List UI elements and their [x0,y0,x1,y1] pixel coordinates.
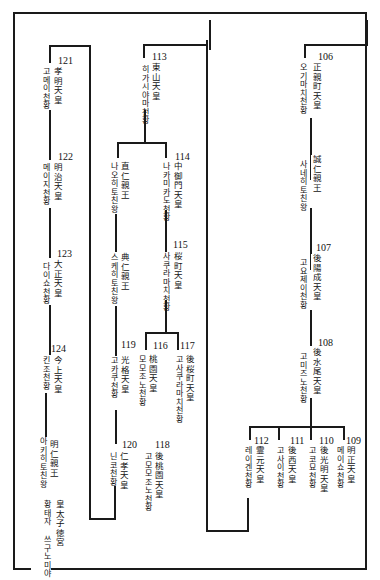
emperor-number: 107 [316,243,331,253]
emperor-number: 113 [152,52,167,62]
prince-kanji: 直仁親王 [119,162,128,200]
prince-kanji: 誠仁親王 [311,155,320,193]
emperor-kanji: 桜町天皇 [172,252,181,290]
connector [45,393,47,441]
emperor-korean: 메이쇼천황 [335,446,344,489]
connector [89,518,116,520]
connector [145,332,147,350]
emperor-number: 115 [173,240,188,250]
connector [366,20,368,46]
emperor-number: 118 [155,440,170,450]
emperor-number: 111 [290,436,304,446]
connector [247,498,249,532]
emperor-korean: 닌코천황 [108,452,117,486]
emperor-kanji: 中御門天皇 [172,162,181,210]
emperor-korean: 고요제이천황 [298,258,307,309]
emperor-kanji: 霊元天皇 [254,446,263,484]
emperor-number: 121 [58,56,73,66]
connector [249,426,345,428]
connector [143,44,208,46]
prince-korean: 아키히토친왕 [38,437,47,488]
connector [117,142,119,158]
emperor-kanji: 後西天皇 [286,446,295,484]
emperor-number: 112 [254,436,269,446]
connector [304,44,306,58]
emperor-korean: 다이쇼천황 [41,262,50,305]
emperor-number: 123 [57,249,72,259]
emperor-kanji: 後陽成天皇 [311,254,320,302]
connector [278,426,280,440]
emperor-number: 120 [122,440,137,450]
connector [145,332,179,334]
emperor-korean: 고사쿠라마치천황 [174,355,183,423]
emperor-korean: 고모모조노천황 [143,452,152,512]
connector [177,332,179,350]
connector [144,110,146,144]
emperor-number: 116 [153,341,168,351]
connector [165,142,167,158]
crown-prince-kanji: 皇太子徳宮 [54,500,63,548]
emperor-kanji: 後水尾天皇 [311,348,320,396]
emperor-kanji: 大正天皇 [52,260,61,298]
emperor-kanji: 光格天皇 [119,356,128,394]
emperor-number: 124 [51,344,66,354]
connector [115,214,117,252]
connector [49,110,51,160]
emperor-korean: 메이지천황 [41,163,50,206]
prince-korean: 나오히토친왕 [109,162,118,213]
emperor-korean: 모모조노천황 [137,355,146,406]
connector [209,20,211,50]
prince-kanji: 明仁親王 [48,440,57,478]
emperor-number: 114 [175,152,190,162]
emperor-kanji: 仁孝天皇 [118,452,127,490]
emperor-number: 108 [318,338,333,348]
emperor-number: 106 [318,52,333,62]
emperor-kanji: 東山天皇 [150,63,159,101]
connector [165,300,167,334]
emperor-kanji: 桃園天皇 [147,355,156,393]
emperor-korean: 레이겐천황 [243,446,252,489]
emperor-number: 122 [58,152,73,162]
prince-kanji: 典仁親王 [119,253,128,291]
emperor-number: 117 [180,341,195,351]
emperor-korean: 고메이천황 [41,67,50,110]
connector [49,45,91,47]
emperor-kanji: 孝明天皇 [52,67,61,105]
emperor-kanji: 後光明天皇 [318,446,327,494]
connector [49,45,51,63]
connector [89,46,91,520]
emperor-number: 110 [319,436,334,446]
emperor-kanji: 後桃園天皇 [153,452,162,500]
connector [49,208,51,258]
emperor-kanji: 明治天皇 [52,163,61,201]
emperor-kanji: 今上天皇 [52,356,61,394]
connector [206,530,249,532]
emperor-kanji: 正親町天皇 [311,63,320,111]
connector [249,426,251,440]
connector [143,44,145,58]
emperor-korean: 고사이천황 [275,446,284,489]
connector [115,410,117,444]
emperor-korean: 킨조천황 [41,356,50,390]
connector [114,486,116,520]
prince-korean: 스케히토친왕 [109,253,118,304]
prince-korean: 사네히토친왕 [298,160,307,211]
connector [206,40,208,532]
crown-prince-korean: 황태자 쓰구노미야 [31,500,51,578]
connector [310,426,312,440]
emperor-kanji: 明正天皇 [345,446,354,484]
connector [310,310,312,346]
emperor-korean: 고카쿠천황 [109,356,118,399]
emperor-kanji: 後桜町天皇 [184,355,193,403]
connector [343,426,345,440]
emperor-number: 109 [346,436,361,446]
connector [310,398,312,428]
connector [304,44,368,46]
emperor-korean: 고미즈노천황 [298,352,307,403]
emperor-number: 119 [121,340,136,350]
emperor-korean: 오기마치천황 [298,63,307,114]
emperor-korean: 고코묘천황 [307,446,316,489]
connector [117,142,167,144]
